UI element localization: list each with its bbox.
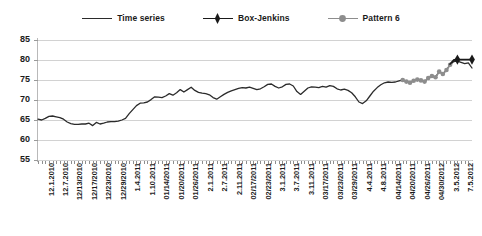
x-axis-labels: 12.1.201012.7.201012/13/201012/17/201012…	[0, 161, 482, 236]
x-minor-tick	[428, 161, 429, 164]
x-minor-tick	[67, 161, 68, 164]
x-minor-tick	[319, 161, 320, 164]
x-minor-tick	[348, 161, 349, 164]
x-minor-tick	[406, 161, 407, 164]
x-minor-tick	[111, 161, 112, 164]
x-minor-tick	[457, 161, 458, 164]
x-minor-tick	[436, 161, 437, 164]
x-minor-tick	[38, 161, 39, 164]
x-minor-tick	[93, 161, 94, 164]
y-tick-mark-80	[34, 60, 38, 61]
y-tick-mark-70	[34, 100, 38, 101]
x-minor-tick	[53, 161, 54, 164]
x-minor-tick	[96, 161, 97, 164]
x-tick-label: 2.7.2011	[221, 163, 228, 191]
y-tick-label-65: 65	[4, 115, 30, 124]
x-minor-tick	[414, 161, 415, 164]
x-minor-tick	[374, 161, 375, 164]
x-minor-tick	[60, 161, 61, 164]
legend-item-box-jenkins[interactable]: Box-Jenkins	[203, 13, 290, 23]
chart-legend: Time series Box-Jenkins Pattern 6	[0, 8, 482, 28]
x-minor-tick	[198, 161, 199, 164]
x-minor-tick	[169, 161, 170, 164]
x-minor-tick	[191, 161, 192, 164]
x-minor-tick	[188, 161, 189, 164]
x-tick-label: 1.4.2011	[134, 163, 141, 191]
x-minor-tick	[42, 161, 43, 164]
x-minor-tick	[184, 161, 185, 164]
x-minor-tick	[129, 161, 130, 164]
x-minor-tick	[257, 161, 258, 164]
circle-marker-icon	[437, 69, 442, 74]
legend-item-time-series[interactable]: Time series	[82, 13, 165, 23]
x-minor-tick	[144, 161, 145, 164]
gridline-60	[38, 140, 472, 141]
gridline-65	[38, 120, 472, 121]
y-tick-label-75: 75	[4, 75, 30, 84]
gridline-75	[38, 80, 472, 81]
x-minor-tick	[439, 161, 440, 164]
x-minor-tick	[432, 161, 433, 164]
x-minor-tick	[100, 161, 101, 164]
x-minor-tick	[155, 161, 156, 164]
y-tick-mark-75	[34, 80, 38, 81]
x-minor-tick	[202, 161, 203, 164]
x-minor-tick	[115, 161, 116, 164]
x-minor-tick	[166, 161, 167, 164]
y-tick-label-85: 85	[4, 35, 30, 44]
x-minor-tick	[45, 161, 46, 164]
y-tick-mark-65	[34, 120, 38, 121]
x-minor-tick	[253, 161, 254, 164]
x-minor-tick	[454, 161, 455, 164]
x-minor-tick	[275, 161, 276, 164]
circle-marker-icon	[444, 68, 449, 73]
x-tick-label: 12/17/2010	[91, 163, 98, 200]
x-tick-label: 01/20/2011	[178, 163, 185, 200]
x-minor-tick	[133, 161, 134, 164]
x-minor-tick	[220, 161, 221, 164]
x-minor-tick	[308, 161, 309, 164]
x-minor-tick	[136, 161, 137, 164]
y-tick-label-70: 70	[4, 95, 30, 104]
x-minor-tick	[85, 161, 86, 164]
x-tick-label: 7.5.2012	[467, 163, 474, 192]
x-tick-label: 03/29/2011	[351, 163, 358, 200]
x-minor-tick	[425, 161, 426, 164]
diamond-marker-icon	[203, 13, 233, 23]
x-minor-tick	[49, 161, 50, 164]
x-minor-tick	[341, 161, 342, 164]
x-minor-tick	[71, 161, 72, 164]
x-minor-tick	[359, 161, 360, 164]
legend-item-pattern-6[interactable]: Pattern 6	[328, 13, 400, 23]
x-minor-tick	[384, 161, 385, 164]
x-minor-tick	[399, 161, 400, 164]
x-minor-tick	[195, 161, 196, 164]
x-minor-tick	[377, 161, 378, 164]
x-minor-tick	[271, 161, 272, 164]
x-tick-label: 04/20/2011	[409, 163, 416, 200]
series-time-series	[38, 61, 472, 125]
y-tick-mark-60	[34, 140, 38, 141]
x-minor-tick	[268, 161, 269, 164]
legend-label-pattern-6: Pattern 6	[363, 14, 400, 23]
x-tick-label: 03/23/2011	[337, 163, 344, 200]
circle-marker-icon	[328, 13, 358, 23]
circle-marker-icon	[441, 72, 446, 77]
x-minor-tick	[206, 161, 207, 164]
x-minor-tick	[330, 161, 331, 164]
x-minor-tick	[104, 161, 105, 164]
x-minor-tick	[209, 161, 210, 164]
x-tick-label: 12/13/2010	[76, 163, 83, 200]
x-tick-label: 4.4.2011	[366, 163, 373, 191]
x-minor-tick	[162, 161, 163, 164]
circle-marker-icon	[448, 63, 453, 68]
x-minor-tick	[74, 161, 75, 164]
series-pattern-6	[400, 63, 452, 86]
x-minor-tick	[344, 161, 345, 164]
x-minor-tick	[312, 161, 313, 164]
series-line	[38, 61, 472, 125]
x-tick-label: 04/14/2011	[395, 163, 402, 200]
x-tick-label: 2.1.2011	[207, 163, 214, 191]
gridline-70	[38, 100, 472, 101]
x-tick-label: 02/17/2011	[250, 163, 257, 200]
